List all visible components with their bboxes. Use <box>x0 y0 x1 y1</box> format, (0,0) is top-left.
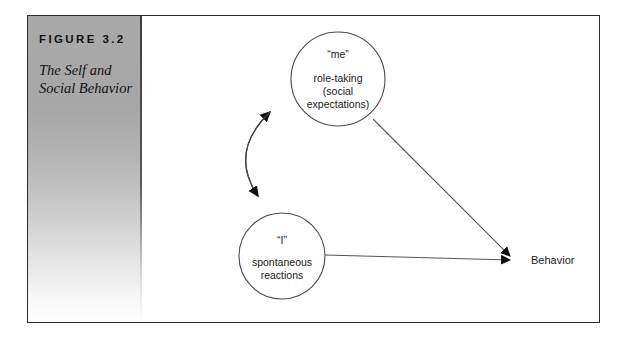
outcome-label-behavior: Behavior <box>531 254 575 266</box>
node-me-line-1: role-taking <box>313 72 362 84</box>
figure-label: FIGURE 3.2 <box>39 33 126 45</box>
figure-caption: The Self and Social Behavior <box>39 61 139 97</box>
figure-root: FIGURE 3.2 The Self and Social Behavior <box>0 0 627 341</box>
node-me-title: “me” <box>327 48 349 60</box>
self-and-social-behavior-diagram: “me” role-taking (social expectations) “… <box>141 16 601 321</box>
node-i-line-2: reactions <box>261 269 304 281</box>
connector-i-to-me-curve <box>246 112 270 196</box>
node-me-line-2: (social <box>323 85 353 97</box>
figure-caption-line-2: Social Behavior <box>39 79 139 97</box>
node-i: “I” spontaneous reactions <box>239 213 325 299</box>
node-me-line-3: expectations) <box>307 98 369 110</box>
connector-i-to-behavior <box>325 255 510 260</box>
connector-me-to-behavior <box>373 119 510 256</box>
node-i-title: “I” <box>277 234 287 246</box>
connector-me-to-i-curve <box>246 112 270 196</box>
figure-caption-line-1: The Self and <box>39 61 139 79</box>
node-i-line-1: spontaneous <box>252 256 312 268</box>
node-me: “me” role-taking (social expectations) <box>291 32 385 126</box>
figure-frame: FIGURE 3.2 The Self and Social Behavior <box>27 15 600 323</box>
caption-panel: FIGURE 3.2 The Self and Social Behavior <box>28 16 141 322</box>
diagram-area: “me” role-taking (social expectations) “… <box>141 16 599 322</box>
